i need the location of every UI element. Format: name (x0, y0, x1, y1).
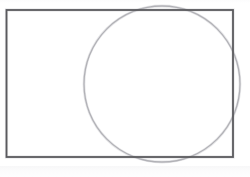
rectangle-shape-halo (7, 10, 234, 157)
figure-canvas (0, 0, 250, 177)
shapes-svg (0, 0, 250, 177)
rectangle-shape (7, 10, 234, 157)
circle-shape-halo (84, 6, 240, 162)
